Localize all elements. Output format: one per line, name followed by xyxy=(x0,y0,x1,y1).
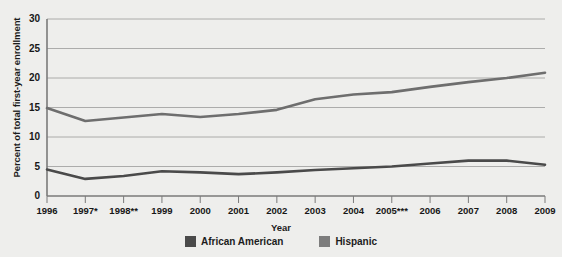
legend-swatch xyxy=(185,236,196,247)
legend-entry: Hispanic xyxy=(319,236,377,247)
legend-label: Hispanic xyxy=(335,236,377,247)
x-axis-tick-marks xyxy=(47,196,545,203)
x-tick-label: 2009 xyxy=(534,206,555,216)
chart-container: Percent of total first-year enrollment 0… xyxy=(0,0,562,257)
gridlines xyxy=(47,19,545,167)
x-tick-label: 2006 xyxy=(419,206,440,216)
x-tick-label: 2005*** xyxy=(376,206,408,216)
x-tick-label: 2001 xyxy=(228,206,249,216)
legend-label: African American xyxy=(201,236,283,247)
series-line-african-american xyxy=(47,161,545,179)
x-tick-label: 2002 xyxy=(266,206,287,216)
legend-entry: African American xyxy=(185,236,283,247)
x-axis-title: Year xyxy=(0,222,562,233)
x-tick-label: 2008 xyxy=(496,206,517,216)
x-tick-label: 1998** xyxy=(109,206,138,216)
x-tick-label: 1999 xyxy=(151,206,172,216)
x-tick-label: 2004 xyxy=(343,206,364,216)
x-tick-label: 2003 xyxy=(305,206,326,216)
plot-area xyxy=(0,0,562,257)
x-tick-label: 2000 xyxy=(190,206,211,216)
legend-swatch xyxy=(319,236,330,247)
data-series-lines xyxy=(47,73,545,179)
x-tick-label: 1997* xyxy=(73,206,98,216)
chart-legend: African AmericanHispanic xyxy=(0,236,562,247)
series-line-hispanic xyxy=(47,73,545,121)
x-tick-label: 2007 xyxy=(458,206,479,216)
x-tick-label: 1996 xyxy=(36,206,57,216)
